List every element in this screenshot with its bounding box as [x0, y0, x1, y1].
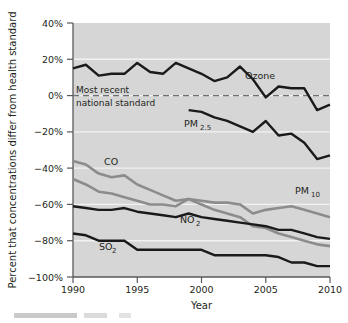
y-tick-label-neg40: −40% — [34, 163, 63, 174]
series-label-so2-subscript: 2 — [112, 247, 116, 255]
series-label-co: CO — [104, 156, 118, 167]
series-label-no2: NO — [180, 214, 195, 225]
y-axis-ticks — [67, 23, 73, 277]
y-tick-label-40: 40% — [42, 18, 63, 29]
x-tick-label-2000: 2000 — [189, 284, 213, 295]
x-axis-ticks — [73, 277, 330, 283]
series-label-pm10: PM — [295, 185, 309, 196]
x-tick-label-2010: 2010 — [318, 284, 342, 295]
plot-background — [73, 23, 330, 277]
series-label-pm10-subscript: 10 — [311, 191, 320, 199]
series-label-ozone: Ozone — [245, 70, 275, 81]
series-label-no2-subscript: 2 — [196, 220, 200, 228]
x-axis-title: Year — [190, 300, 213, 311]
x-tick-label-1995: 1995 — [125, 284, 149, 295]
y-axis-title: Percent that concentrations differ from … — [7, 11, 18, 288]
series-label-so2: SO — [99, 241, 113, 252]
series-label-pm25-subscript: 2.5 — [200, 124, 211, 132]
standard-annotation-line1: Most recent — [76, 85, 130, 95]
y-tick-label-neg60: −60% — [34, 199, 63, 210]
y-tick-label-neg20: −20% — [34, 126, 63, 137]
y-tick-label-neg100: −100% — [28, 272, 63, 283]
air-quality-trend-chart: 40% 20% 0% −20% −40% −60% −80% −100% 199… — [0, 0, 348, 323]
figure-caption-fragment — [14, 313, 164, 318]
y-tick-label-20: 20% — [42, 54, 63, 65]
x-tick-label-1990: 1990 — [61, 284, 85, 295]
standard-annotation-line2: national standard — [76, 98, 155, 108]
figure-container: 40% 20% 0% −20% −40% −60% −80% −100% 199… — [0, 0, 348, 323]
series-label-pm25: PM — [184, 118, 198, 129]
y-tick-label-0: 0% — [48, 90, 63, 101]
x-tick-label-2005: 2005 — [254, 284, 278, 295]
y-tick-label-neg80: −80% — [34, 235, 63, 246]
